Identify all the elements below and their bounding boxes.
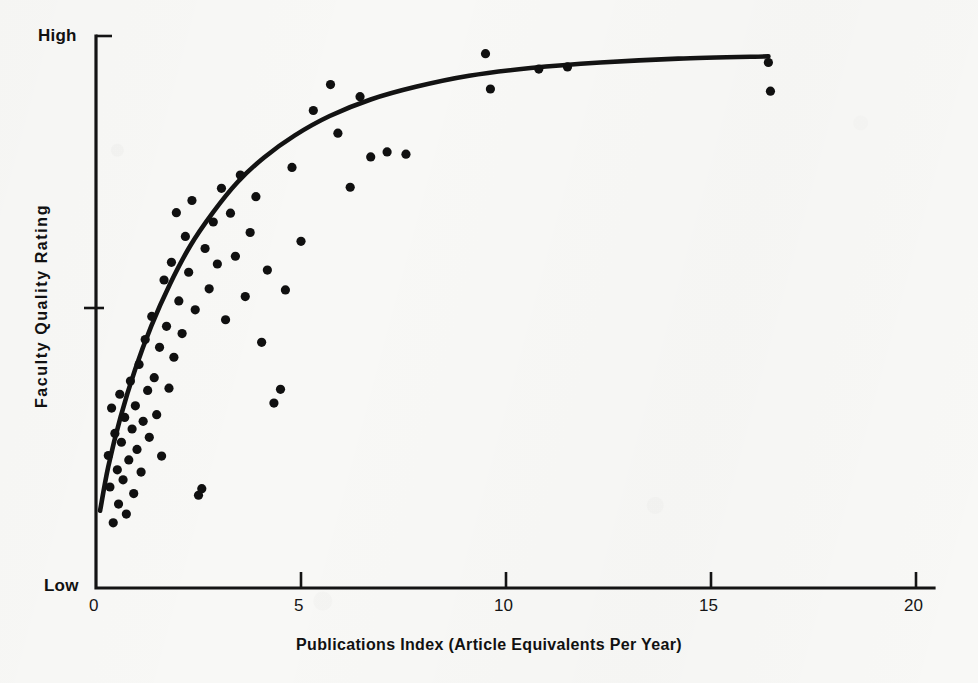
data-point: [174, 296, 183, 305]
data-point: [276, 385, 285, 394]
data-point: [221, 315, 230, 324]
data-point: [134, 360, 143, 369]
data-point: [281, 285, 290, 294]
x-tick-label-15: 15: [699, 596, 718, 616]
y-axis-high-label: High: [38, 26, 77, 46]
data-point: [246, 228, 255, 237]
data-point: [181, 232, 190, 241]
plot-canvas: [0, 0, 978, 683]
data-point: [107, 403, 116, 412]
data-point: [383, 147, 392, 156]
data-point: [137, 467, 146, 476]
data-point: [766, 87, 775, 96]
axis-lines: [96, 36, 934, 588]
data-point: [231, 252, 240, 261]
data-point: [169, 353, 178, 362]
data-point: [563, 62, 572, 71]
x-axis-title: Publications Index (Article Equivalents …: [0, 636, 978, 654]
data-point: [126, 376, 135, 385]
data-point: [241, 292, 250, 301]
data-point: [104, 451, 113, 460]
y-axis-low-label: Low: [44, 576, 79, 596]
data-point: [164, 384, 173, 393]
data-point: [187, 196, 196, 205]
y-axis-title: Faculty Quality Rating: [33, 156, 51, 456]
data-point: [366, 152, 375, 161]
data-point: [117, 438, 126, 447]
data-point: [150, 373, 159, 382]
x-tick-label-20: 20: [904, 596, 923, 616]
axes-group: [84, 36, 934, 588]
data-point: [217, 184, 226, 193]
data-point: [287, 163, 296, 172]
data-point: [167, 258, 176, 267]
data-point: [209, 217, 218, 226]
data-point: [109, 518, 118, 527]
data-point: [200, 244, 209, 253]
data-point: [251, 192, 260, 201]
data-point: [172, 208, 181, 217]
data-point: [118, 475, 127, 484]
data-point: [191, 305, 200, 314]
data-point: [236, 171, 245, 180]
data-point: [129, 489, 138, 498]
data-point: [764, 58, 773, 67]
data-point: [309, 106, 318, 115]
data-point: [131, 401, 140, 410]
data-point: [147, 312, 156, 321]
data-point: [105, 482, 114, 491]
data-point: [152, 410, 161, 419]
data-point: [113, 465, 122, 474]
data-point: [114, 500, 123, 509]
data-point: [159, 275, 168, 284]
data-point: [534, 65, 543, 74]
scatter-plot-figure: High Low 0 5 10 15 20 Publications Index…: [0, 0, 978, 683]
data-point: [115, 390, 124, 399]
data-point: [346, 183, 355, 192]
data-points-group: [104, 49, 775, 527]
data-point: [141, 335, 150, 344]
data-point: [132, 445, 141, 454]
data-point: [178, 329, 187, 338]
data-point: [296, 237, 305, 246]
data-point: [120, 413, 129, 422]
x-tick-label-10: 10: [494, 596, 513, 616]
x-tick-label-0: 0: [89, 596, 98, 616]
data-point: [213, 259, 222, 268]
data-point: [124, 455, 133, 464]
data-point: [122, 509, 131, 518]
x-tick-label-5: 5: [294, 596, 303, 616]
data-point: [197, 484, 206, 493]
data-point: [145, 433, 154, 442]
data-point: [110, 429, 119, 438]
data-point: [401, 150, 410, 159]
data-point: [143, 386, 152, 395]
data-point: [127, 424, 136, 433]
data-point: [205, 284, 214, 293]
data-point: [486, 84, 495, 93]
data-point: [157, 451, 166, 460]
data-point: [155, 343, 164, 352]
data-point: [263, 265, 272, 274]
data-point: [481, 49, 490, 58]
data-point: [257, 338, 266, 347]
data-point: [333, 129, 342, 138]
data-point: [326, 80, 335, 89]
data-point: [184, 268, 193, 277]
data-point: [355, 92, 364, 101]
data-point: [162, 322, 171, 331]
data-point: [269, 398, 278, 407]
data-point: [226, 209, 235, 218]
fitted-trend-curve: [100, 56, 768, 510]
data-point: [139, 417, 148, 426]
